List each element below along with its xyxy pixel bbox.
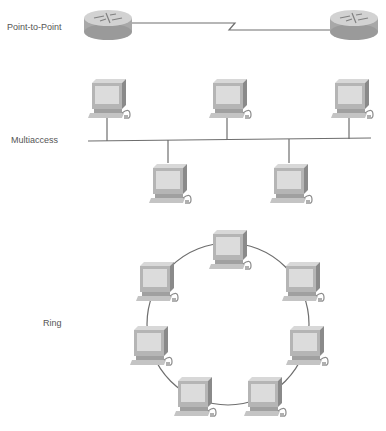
- pc-icon: [209, 79, 251, 119]
- serial-link: [132, 23, 330, 30]
- bus-line: [88, 138, 371, 141]
- pc-icon: [209, 230, 251, 270]
- pc-icon: [270, 164, 312, 204]
- router-right-icon: [330, 10, 378, 40]
- pc-icon: [286, 326, 328, 366]
- pc-icon: [88, 79, 130, 119]
- pc-icon: [282, 262, 324, 302]
- pc-icon: [149, 164, 191, 204]
- pc-icon: [331, 79, 373, 119]
- network-topology-diagram: [0, 0, 386, 431]
- pc-icon: [130, 326, 172, 366]
- router-left-icon: [84, 10, 132, 40]
- pc-icon: [174, 377, 216, 417]
- pc-icon: [244, 377, 286, 417]
- pc-icon: [136, 262, 178, 302]
